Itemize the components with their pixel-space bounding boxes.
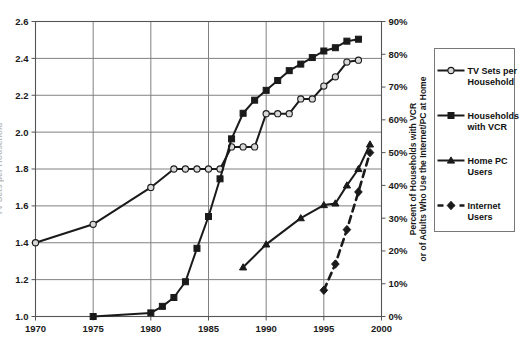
series-line xyxy=(324,153,370,291)
y-axis-left-tick-label: 2.0 xyxy=(15,127,28,138)
data-point-diamond-filled xyxy=(355,188,363,196)
x-axis-tick-label: 1990 xyxy=(256,323,277,334)
y-axis-right-title: Percent of Households with VCRor of Adul… xyxy=(408,76,428,261)
data-point-circle-open xyxy=(344,59,350,65)
y-axis-right-tick-label: 0% xyxy=(389,311,403,322)
legend-label-line1: Internet xyxy=(468,201,501,211)
y-axis-left-title-text: TV Sets per Household xyxy=(0,122,4,215)
y-axis-left-title: TV Sets per Household xyxy=(0,122,4,215)
data-point-square-filled xyxy=(240,110,246,116)
x-axis-tick-label: 1995 xyxy=(313,323,335,334)
data-point-square-filled xyxy=(448,113,454,119)
y-axis-right-tick-label: 80% xyxy=(389,49,409,60)
data-point-square-filled xyxy=(275,78,281,84)
data-point-circle-open xyxy=(309,96,315,102)
data-point-circle-open xyxy=(321,83,327,89)
data-point-square-filled xyxy=(309,55,315,61)
legend-label-line2: Users xyxy=(468,167,493,177)
data-point-square-filled xyxy=(263,87,269,93)
line-chart-canvas: 1.01.21.41.61.82.02.22.42.60%10%20%30%40… xyxy=(0,0,524,344)
data-point-triangle-filled xyxy=(366,141,373,147)
data-point-circle-open xyxy=(298,96,304,102)
data-point-square-filled xyxy=(90,314,96,320)
x-axis-tick-label: 1975 xyxy=(83,323,105,334)
data-point-square-filled xyxy=(217,176,223,182)
data-point-square-filled xyxy=(298,61,304,67)
data-point-circle-open xyxy=(252,144,258,150)
data-point-square-filled xyxy=(344,38,350,44)
data-point-circle-open xyxy=(90,221,96,227)
data-point-square-filled xyxy=(332,45,338,51)
y-axis-left-tick-label: 1.8 xyxy=(15,163,28,174)
data-point-diamond-filled xyxy=(343,225,351,233)
y-axis-left-tick-label: 2.2 xyxy=(15,90,28,101)
y-axis-right-title-line: or of Adults Who Use the Internet/PC at … xyxy=(418,76,428,261)
y-axis-left-tick-label: 1.0 xyxy=(15,311,28,322)
y-axis-left-tick-label: 2.6 xyxy=(15,16,28,27)
y-axis-right-tick-label: 90% xyxy=(389,16,409,27)
data-point-circle-open xyxy=(148,184,154,190)
data-point-circle-open xyxy=(332,74,338,80)
series-line xyxy=(36,60,359,243)
data-point-square-filled xyxy=(148,310,154,316)
data-point-square-filled xyxy=(159,303,165,309)
data-point-circle-open xyxy=(182,166,188,172)
legend: TV Sets perHouseholdHouseholdswith VCRHo… xyxy=(435,49,520,232)
data-point-square-filled xyxy=(252,97,258,103)
x-axis-tick-label: 1970 xyxy=(25,323,46,334)
series-line xyxy=(93,39,358,316)
y-axis-right-title-line: Percent of Households with VCR xyxy=(408,103,418,235)
data-point-circle-open xyxy=(194,166,200,172)
data-point-square-filled xyxy=(286,68,292,74)
data-point-square-filled xyxy=(229,136,235,142)
legend-label-line2: with VCR xyxy=(467,122,508,132)
data-point-circle-open xyxy=(240,144,246,150)
x-axis-tick-label: 1980 xyxy=(140,323,161,334)
chart-figure: 1.01.21.41.61.82.02.22.42.60%10%20%30%40… xyxy=(0,0,524,344)
legend-label-line1: Home PC xyxy=(468,156,509,166)
data-point-circle-open xyxy=(205,166,211,172)
y-axis-right-tick-label: 40% xyxy=(389,180,409,191)
y-axis-right-tick-label: 50% xyxy=(389,147,409,158)
y-axis-right-tick-label: 70% xyxy=(389,81,409,92)
data-point-circle-open xyxy=(171,166,177,172)
legend-label-line2: Users xyxy=(468,212,493,222)
data-point-square-filled xyxy=(194,245,200,251)
data-point-square-filled xyxy=(171,294,177,300)
y-axis-right-tick-label: 30% xyxy=(389,213,409,224)
data-point-circle-open xyxy=(355,57,361,63)
series-tv-sets-per-household xyxy=(32,57,361,246)
y-axis-right-tick-label: 10% xyxy=(389,278,409,289)
data-point-circle-open xyxy=(286,111,292,117)
y-axis-right-tick-label: 20% xyxy=(389,245,409,256)
data-point-circle-open xyxy=(32,240,38,246)
legend-label-line1: TV Sets per xyxy=(468,66,518,76)
data-point-square-filled xyxy=(355,36,361,42)
data-point-circle-open xyxy=(263,111,269,117)
series-internet-users xyxy=(320,148,374,294)
legend-label-line1: Households xyxy=(468,111,520,121)
x-axis-tick-label: 1985 xyxy=(198,323,220,334)
data-point-circle-open xyxy=(275,111,281,117)
data-point-square-filled xyxy=(321,48,327,54)
x-axis-tick-label: 2000 xyxy=(371,323,392,334)
data-point-square-filled xyxy=(206,214,212,220)
y-axis-left-tick-label: 2.4 xyxy=(15,53,29,64)
data-point-circle-open xyxy=(448,67,454,73)
y-axis-left-tick-label: 1.2 xyxy=(15,274,28,285)
legend-label-line2: Household xyxy=(468,77,515,87)
y-axis-left-tick-label: 1.6 xyxy=(15,200,28,211)
series-households-with-vcr xyxy=(90,36,361,319)
y-axis-left-tick-label: 1.4 xyxy=(15,237,29,248)
y-axis-right-tick-label: 60% xyxy=(389,114,409,125)
data-point-square-filled xyxy=(182,279,188,285)
